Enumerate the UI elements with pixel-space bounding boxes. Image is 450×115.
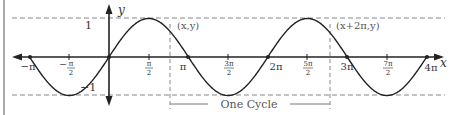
x-axis-left-arrow-icon	[12, 54, 22, 61]
x-tick-half-pi: π 2	[145, 60, 153, 77]
y-axis-label: y	[117, 3, 125, 17]
svg-text:−: −	[59, 59, 67, 69]
y-axis-up-arrow-icon	[106, 4, 113, 14]
svg-text:2: 2	[227, 69, 231, 77]
y-tick-1: 1	[85, 19, 92, 32]
x-tick-three-pi: 3π	[341, 61, 354, 72]
x-tick-seven-half-pi: 7π 2	[383, 60, 393, 77]
svg-text:3π: 3π	[224, 60, 233, 68]
x-tick-neg-half-pi: − π 2	[59, 59, 75, 77]
point-label-x-y: (x,y)	[177, 20, 199, 31]
svg-text:5π: 5π	[303, 60, 312, 68]
y-axis-down-arrow-icon	[106, 96, 113, 106]
svg-text:7π: 7π	[383, 60, 392, 68]
x-tick-two-pi: 2π	[270, 61, 283, 72]
x-tick-five-half-pi: 5π 2	[303, 60, 313, 77]
sine-graph: One Cycle y 1 −1 x −π − π 2 π	[0, 0, 450, 115]
svg-text:π: π	[69, 60, 74, 68]
x-tick-neg-pi: −π	[21, 61, 36, 72]
x-axis-label: x	[440, 56, 447, 70]
svg-text:2: 2	[69, 69, 73, 77]
one-cycle-label: One Cycle	[221, 98, 278, 111]
x-tick-three-half-pi: 3π 2	[224, 60, 234, 77]
x-tick-pi: π	[180, 61, 187, 72]
svg-text:π: π	[147, 60, 152, 68]
svg-text:2: 2	[306, 69, 310, 77]
y-tick-neg-1: −1	[80, 81, 96, 94]
point-label-x-plus-2pi-y: (x+2π,y)	[336, 20, 380, 31]
svg-text:2: 2	[147, 69, 151, 77]
svg-text:2: 2	[386, 69, 390, 77]
x-tick-four-pi: 4π	[425, 62, 438, 73]
